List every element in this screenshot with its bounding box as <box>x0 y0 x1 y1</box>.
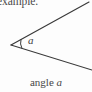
lower-ray-line <box>11 45 92 70</box>
figure-canvas: example. a angle a <box>0 0 92 92</box>
upper-ray-line <box>11 2 89 45</box>
caption-word: angle <box>30 76 54 88</box>
figure-caption: angle a <box>0 76 92 89</box>
angle-arc <box>20 39 21 48</box>
angle-variable-label: a <box>28 35 34 46</box>
caption-variable: a <box>57 76 63 88</box>
